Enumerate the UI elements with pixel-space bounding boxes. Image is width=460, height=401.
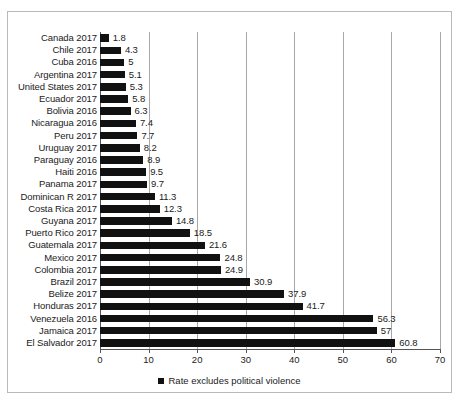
- bar: [100, 315, 373, 323]
- bar-row: 30.9: [100, 278, 440, 286]
- bar: [100, 132, 137, 140]
- bar: [100, 327, 377, 335]
- bar: [100, 181, 147, 189]
- bar-value-label: 6.3: [135, 106, 148, 116]
- bar-value-label: 4.3: [125, 46, 138, 56]
- category-label: Peru 2017: [54, 131, 97, 141]
- category-label: Panama 2017: [39, 179, 97, 189]
- category-label: Brazil 2017: [51, 277, 97, 287]
- bar-value-label: 41.7: [307, 302, 325, 312]
- category-label: Belize 2017: [48, 289, 97, 299]
- bar-value-label: 9.7: [151, 180, 164, 190]
- bar-row: 5.8: [100, 95, 440, 103]
- bar-row: 41.7: [100, 303, 440, 311]
- x-tick-label-20: 20: [192, 355, 203, 365]
- bar-row: 24.9: [100, 266, 440, 274]
- bar-row: 8.2: [100, 144, 440, 152]
- bar: [100, 168, 146, 176]
- bar-row: 37.9: [100, 290, 440, 298]
- bar-value-label: 7.4: [140, 119, 153, 129]
- gridline-70: [440, 32, 441, 349]
- bar-value-label: 5: [128, 58, 133, 68]
- bar: [100, 266, 221, 274]
- plot-area: 1.84.355.15.35.86.37.47.78.28.99.59.711.…: [100, 32, 440, 349]
- bar: [100, 47, 121, 55]
- bar-value-label: 57: [381, 326, 391, 336]
- category-label: Bolivia 2016: [46, 106, 97, 116]
- bar-row: 18.5: [100, 229, 440, 237]
- bar-row: 5: [100, 59, 440, 67]
- bar-value-label: 24.9: [225, 265, 243, 275]
- category-label: Uruguay 2017: [39, 143, 97, 153]
- bar-value-label: 8.2: [144, 143, 157, 153]
- x-tick-label-70: 70: [435, 355, 446, 365]
- bar-value-label: 37.9: [288, 289, 306, 299]
- category-label: Guatemala 2017: [28, 240, 97, 250]
- category-label: Mexico 2017: [44, 253, 97, 263]
- bar: [100, 205, 160, 213]
- chart-screenshot: Canada 2017Chile 2017Cuba 2016Argentina …: [0, 0, 460, 401]
- bar: [100, 229, 190, 237]
- category-label: Venezuela 2016: [30, 314, 97, 324]
- bar-row: 56.3: [100, 315, 440, 323]
- x-tick-label-10: 10: [143, 355, 154, 365]
- bar-row: 8.9: [100, 156, 440, 164]
- bar-row: 11.3: [100, 193, 440, 201]
- bar: [100, 242, 205, 250]
- bar: [100, 34, 109, 42]
- bar-value-label: 8.9: [147, 155, 160, 165]
- category-label: Puerto Rico 2017: [25, 228, 97, 238]
- bar-value-label: 30.9: [254, 277, 272, 287]
- x-tick-30: [246, 349, 247, 353]
- bar-row: 24.8: [100, 254, 440, 262]
- bar-row: 4.3: [100, 47, 440, 55]
- bar-row: 7.7: [100, 132, 440, 140]
- category-label: Honduras 2017: [33, 301, 97, 311]
- bar: [100, 107, 131, 115]
- x-tick-70: [440, 349, 441, 353]
- x-tick-40: [294, 349, 295, 353]
- x-tick-20: [197, 349, 198, 353]
- category-label: Cuba 2016: [51, 57, 97, 67]
- bar-value-label: 9.5: [150, 167, 163, 177]
- bar: [100, 95, 128, 103]
- chart-frame: Canada 2017Chile 2017Cuba 2016Argentina …: [7, 11, 452, 393]
- x-tick-label-50: 50: [338, 355, 349, 365]
- x-tick-label-40: 40: [289, 355, 300, 365]
- category-label: Canada 2017: [41, 33, 97, 43]
- bar-row: 9.5: [100, 168, 440, 176]
- bar-value-label: 14.8: [176, 216, 194, 226]
- bar-value-label: 60.8: [399, 338, 417, 348]
- bar: [100, 339, 395, 347]
- category-axis-labels: Canada 2017Chile 2017Cuba 2016Argentina …: [15, 32, 97, 349]
- bar: [100, 193, 155, 201]
- legend-swatch-icon: [158, 378, 164, 384]
- bar-value-label: 21.6: [209, 241, 227, 251]
- bar-value-label: 5.1: [129, 70, 142, 80]
- category-label: Paraguay 2016: [34, 155, 97, 165]
- bar-row: 60.8: [100, 339, 440, 347]
- category-label: Dominican R 2017: [20, 192, 97, 202]
- bar: [100, 254, 220, 262]
- category-label: Ecuador 2017: [39, 94, 97, 104]
- x-axis-line: [100, 349, 441, 350]
- bar-row: 21.6: [100, 242, 440, 250]
- category-label: Colombia 2017: [34, 265, 97, 275]
- bar-value-label: 5.8: [132, 94, 145, 104]
- x-tick-label-30: 30: [240, 355, 251, 365]
- bar-row: 57: [100, 327, 440, 335]
- bar: [100, 278, 250, 286]
- bar-value-label: 5.3: [130, 82, 143, 92]
- chart-legend: Rate excludes political violence: [8, 376, 451, 386]
- category-label: Jamaica 2017: [39, 326, 97, 336]
- category-label: Chile 2017: [53, 45, 97, 55]
- bar-row: 14.8: [100, 217, 440, 225]
- bar-row: 5.1: [100, 71, 440, 79]
- bar: [100, 217, 172, 225]
- bar: [100, 120, 136, 128]
- bar-row: 1.8: [100, 34, 440, 42]
- bar-value-label: 18.5: [194, 228, 212, 238]
- bar: [100, 290, 284, 298]
- x-tick-10: [149, 349, 150, 353]
- category-label: Guyana 2017: [41, 216, 97, 226]
